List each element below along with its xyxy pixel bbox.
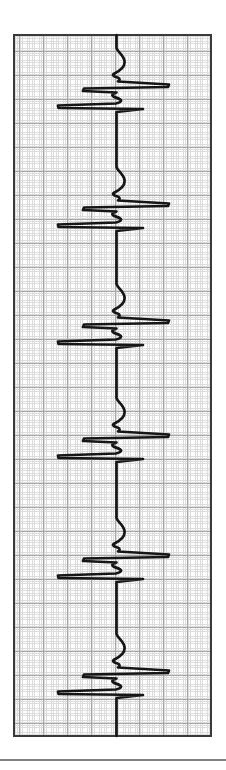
ecg-paper-strip (13, 34, 212, 737)
figure-canvas (0, 0, 226, 770)
bottom-divider-line (0, 759, 226, 761)
